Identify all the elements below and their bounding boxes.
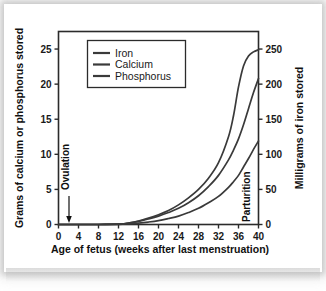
left-tick-label: 20 [40,79,52,90]
figure-container: 0510152025 050100150200250 0481216202428… [0,0,326,291]
x-tick-label: 20 [153,231,165,242]
legend-label-iron: Iron [115,47,133,59]
chart-legend: Iron Calcium Phosphorus [88,41,186,88]
legend-label-calcium: Calcium [115,58,153,70]
x-tick-label: 12 [113,231,125,242]
left-tick-label: 10 [40,149,52,160]
right-tick-label: 0 [266,219,272,230]
left-tick-label: 25 [40,44,52,55]
left-tick-label: 15 [40,114,52,125]
chart-plot: 0510152025 050100150200250 0481216202428… [0,0,326,291]
x-tick-label: 36 [233,231,245,242]
right-tick-label: 200 [266,79,283,90]
right-tick-label: 250 [266,44,283,55]
right-tick-label: 100 [266,149,283,160]
x-tick-label: 28 [193,231,205,242]
annotation-parturition: Parturition [241,171,252,222]
left-tick-label: 0 [46,219,52,230]
x-axis-title: Age of fetus (weeks after last menstruat… [51,243,269,255]
ovulation-label: Ovulation [60,144,71,190]
x-tick-label: 32 [213,231,225,242]
right-tick-label: 50 [266,184,278,195]
right-tick-label: 150 [266,114,283,125]
y2-axis-title: Milligrams of iron stored [293,67,305,190]
x-tick-label: 4 [76,231,82,242]
x-tick-label: 0 [56,231,62,242]
x-tick-label: 40 [253,231,265,242]
right-axis-ticks: 050100150200250 [259,44,283,230]
parturition-label: Parturition [241,171,252,222]
x-axis-ticks: 0481216202428323640 [56,225,265,242]
x-tick-label: 8 [96,231,102,242]
left-tick-label: 5 [46,184,52,195]
chart-svg: 0510152025 050100150200250 0481216202428… [0,0,326,291]
y-axis-title: Grams of calcium or phosphorus stored [13,28,25,228]
left-axis-ticks: 0510152025 [40,44,58,230]
legend-label-phosphorus: Phosphorus [115,70,171,82]
x-tick-label: 24 [173,231,185,242]
x-tick-label: 16 [133,231,145,242]
